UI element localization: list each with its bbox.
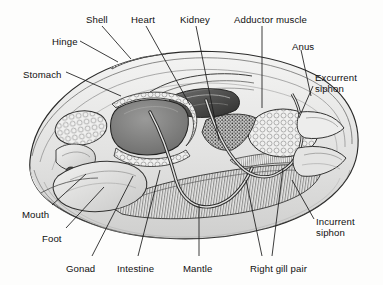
label-shell: Shell [86,14,108,25]
label-adductor-muscle: Adductor muscle [234,14,307,25]
label-stomach: Stomach [23,69,62,80]
anatomy-diagram: ShellHeartKidneyAdductor muscleHingeAnus… [0,0,383,285]
stomach-cavity [111,99,189,155]
label-intestine: Intestine [117,263,154,274]
hinge-leader [80,41,118,62]
label-anus: Anus [292,41,314,52]
label-mantle: Mantle [183,263,212,274]
shell-leader [102,26,131,59]
label-mouth: Mouth [22,209,49,220]
label-incurrent-siphon: Incurrent siphon [316,216,355,238]
label-heart: Heart [131,14,155,25]
label-right-gill-pair: Right gill pair [250,263,307,274]
label-foot: Foot [42,233,62,244]
label-gonad: Gonad [66,263,95,274]
label-excurrent-siphon: Excurrent siphon [315,72,357,94]
label-kidney: Kidney [180,14,210,25]
label-hinge: Hinge [52,36,78,47]
